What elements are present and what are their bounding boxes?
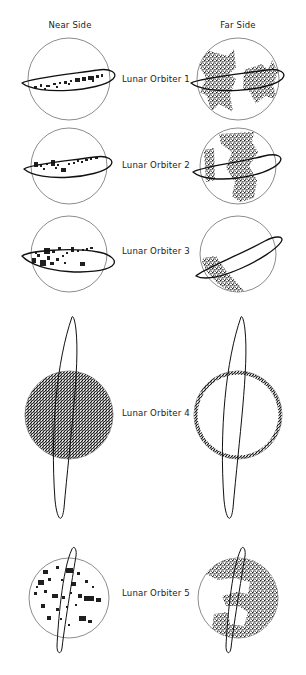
row-label-lunar-orbiter-4: Lunar Orbiter 4 [108, 408, 204, 418]
globe-near-side-lunar-orbiter-3 [22, 216, 114, 292]
globe-far-side-lunar-orbiter-4 [190, 317, 286, 519]
globe-near-side-lunar-orbiter-1 [22, 38, 115, 120]
column-header-near-side: Near Side [28, 20, 112, 30]
row-label-lunar-orbiter-1: Lunar Orbiter 1 [108, 74, 204, 84]
orbit-path-far-side-lunar-orbiter-4 [222, 317, 246, 519]
row-label-lunar-orbiter-2: Lunar Orbiter 2 [108, 160, 204, 170]
lunar-orbiter-coverage-figure: Near Side Far Side Lunar Orbiter 1 Lunar… [0, 0, 306, 675]
globe-far-side-lunar-orbiter-1 [191, 38, 284, 120]
coverage-diagram-canvas [0, 0, 306, 675]
globe-far-side-lunar-orbiter-3 [196, 216, 282, 293]
coverage-far-side-lunar-orbiter-4 [190, 368, 286, 464]
orbit-path-near-side-lunar-orbiter-2 [24, 157, 112, 178]
globe-near-side-lunar-orbiter-2 [24, 128, 112, 204]
coverage-near-side-lunar-orbiter-5 [34, 566, 101, 626]
globe-near-side-lunar-orbiter-5 [29, 547, 109, 652]
globe-near-side-lunar-orbiter-4 [25, 317, 113, 519]
column-header-far-side: Far Side [196, 20, 280, 30]
globe-far-side-lunar-orbiter-5 [198, 547, 284, 652]
coverage-near-side-lunar-orbiter-4 [25, 371, 113, 459]
row-label-lunar-orbiter-5: Lunar Orbiter 5 [108, 588, 204, 598]
coverage-far-side-lunar-orbiter-1 [199, 49, 278, 112]
globe-far-side-lunar-orbiter-2 [193, 128, 281, 204]
coverage-far-side-lunar-orbiter-5 [198, 558, 284, 642]
row-label-lunar-orbiter-3: Lunar Orbiter 3 [108, 246, 204, 256]
